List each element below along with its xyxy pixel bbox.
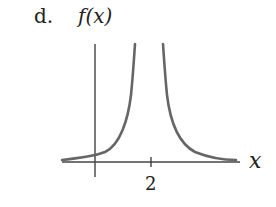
x-tick-label: 2 [145,173,156,194]
function-graph [0,0,276,207]
curve-right-branch [163,44,236,160]
curve-left-branch [62,44,135,160]
x-axis-label: x [249,148,261,173]
